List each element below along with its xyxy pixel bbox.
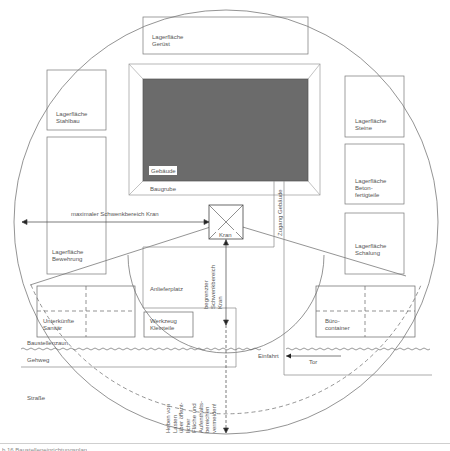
label-excavation: Baugrube	[150, 186, 177, 192]
label-entrance: Einfahrt	[258, 353, 279, 359]
label-delivery-area: Anlieferplatz	[150, 286, 183, 292]
label-lifting-warning: Heben von Lasten über öffent- licher Flä…	[165, 399, 217, 433]
label-sidewalk: Gehweg	[27, 357, 49, 363]
label-storage-formwork: LagerflächeSchalung	[355, 243, 387, 256]
building	[143, 79, 308, 181]
label-fence: Baustellenzaun	[27, 340, 68, 346]
label-storage-bricks: LagerflächeSteine	[355, 118, 387, 131]
storage-bricks	[345, 76, 404, 137]
label-limited-swing: begrenzterSchwenkbereichKran	[203, 265, 223, 309]
label-storage-precast: LagerflächeBeton-fertigteile	[355, 178, 387, 198]
gate-arrow	[286, 354, 341, 359]
construction-fence-right	[286, 348, 430, 350]
limited-swing-arrow	[224, 239, 229, 433]
label-street: Straße	[27, 395, 46, 401]
max-swing-arrow	[22, 220, 209, 225]
figure-caption: b 16 Baustelleneinrichtungsplan	[2, 447, 87, 451]
label-accommodation: UnterkünfteSanitär	[43, 318, 75, 331]
label-crane: Kran	[219, 232, 232, 238]
label-building-access: Zugang Gebäude	[277, 189, 283, 236]
label-tools: WerkzeugKleinteile	[150, 318, 177, 331]
label-gate: Tor	[309, 359, 317, 365]
label-storage-rebar: LagerflächeBewehrung	[52, 249, 84, 262]
label-max-swing: maximaler Schwenkbereich Kran	[71, 211, 159, 217]
label-building: Gebäude	[151, 168, 176, 174]
label-storage-steel: LagerflächeStahlbau	[56, 111, 88, 124]
label-storage-scaffold: LagerflächeGerüst	[152, 34, 184, 47]
caption-divider	[0, 443, 450, 444]
label-office: Büro-container	[325, 318, 350, 331]
site-plan: LagerflächeGerüst LagerflächeStahlbau La…	[0, 0, 450, 451]
